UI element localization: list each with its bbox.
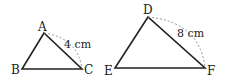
vertex-label-a: A: [37, 20, 47, 34]
diagram-svg: A B C 4 cm D E F 8 cm: [0, 0, 227, 82]
vertex-label-e: E: [104, 64, 113, 78]
triangle-def: [115, 17, 205, 68]
vertex-label-b: B: [11, 63, 20, 77]
vertex-label-d: D: [143, 3, 153, 17]
vertex-label-c: C: [84, 63, 93, 77]
measure-ac: 4 cm: [64, 38, 92, 51]
similar-triangles-diagram: A B C 4 cm D E F 8 cm: [0, 0, 227, 82]
vertex-label-f: F: [207, 64, 215, 78]
measure-df: 8 cm: [177, 27, 205, 40]
